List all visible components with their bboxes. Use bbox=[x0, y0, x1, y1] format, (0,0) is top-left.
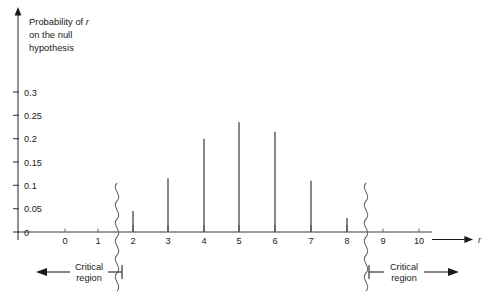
right-critical-region-label-line-1: Critical bbox=[390, 262, 418, 272]
y-tick-label: 0.25 bbox=[24, 111, 42, 121]
x-axis-label: r bbox=[478, 235, 482, 245]
y-tick-label: 0.1 bbox=[24, 181, 37, 191]
y-axis-label: Probability of r on the null hypothesis bbox=[29, 16, 90, 53]
left-critical-region-arrowhead bbox=[36, 268, 47, 276]
left-critical-region-annotation: Critical region bbox=[36, 262, 122, 283]
x-tick-label: 0 bbox=[62, 236, 67, 246]
x-tick-label: 2 bbox=[130, 236, 135, 246]
right-critical-region-annotation: Critical region bbox=[369, 262, 459, 283]
x-axis-arrowhead bbox=[464, 236, 473, 243]
x-tick-label: 9 bbox=[380, 236, 385, 246]
y-axis-arrowhead bbox=[15, 7, 22, 16]
y-axis-ticks: 0.3 0.25 0.2 0.15 0.1 0.05 0 bbox=[13, 88, 42, 238]
y-tick-label: 0.2 bbox=[24, 134, 37, 144]
probability-distribution-chart: Probability of r on the null hypothesis … bbox=[0, 0, 494, 302]
x-tick-label: 3 bbox=[165, 236, 170, 246]
y-axis-label-line-3: hypothesis bbox=[29, 42, 74, 53]
y-axis-label-prefix: Probability of bbox=[29, 16, 86, 27]
x-tick-label: 8 bbox=[344, 236, 349, 246]
right-critical-region-arrowhead bbox=[448, 268, 459, 276]
left-critical-region-label-line-1: Critical bbox=[75, 262, 103, 272]
y-tick-label: 0.05 bbox=[24, 204, 42, 214]
y-axis-label-line-2: on the null bbox=[29, 29, 72, 40]
x-tick-label: 5 bbox=[236, 236, 241, 246]
y-axis-group bbox=[15, 7, 22, 240]
x-tick-label: 10 bbox=[414, 236, 424, 246]
y-tick-label: 0.15 bbox=[24, 158, 42, 168]
x-axis-group: r bbox=[18, 232, 482, 245]
left-break-squiggle bbox=[115, 183, 118, 291]
left-critical-region-label-line-2: region bbox=[76, 273, 102, 283]
right-critical-region-label-line-2: region bbox=[391, 273, 417, 283]
chart-canvas: Probability of r on the null hypothesis … bbox=[0, 0, 494, 302]
y-axis-label-variable: r bbox=[86, 16, 90, 27]
x-tick-label: 4 bbox=[201, 236, 206, 246]
x-tick-label: 1 bbox=[95, 236, 100, 246]
x-tick-label: 6 bbox=[272, 236, 277, 246]
right-break-squiggle bbox=[364, 183, 367, 291]
data-spikes bbox=[133, 122, 347, 232]
x-tick-label: 7 bbox=[308, 236, 313, 246]
y-tick-label: 0.3 bbox=[24, 88, 37, 98]
y-axis-label-line-1: Probability of r bbox=[29, 16, 90, 27]
